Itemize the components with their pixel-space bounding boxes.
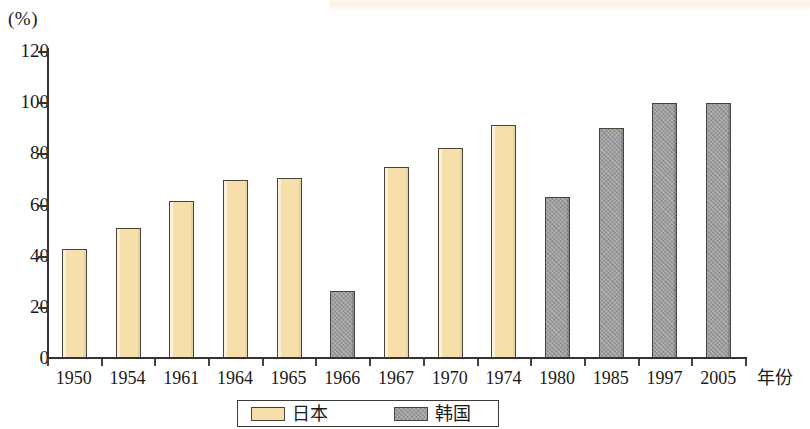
x-axis-tick-mark xyxy=(530,359,532,366)
bar-1985-korea xyxy=(599,128,624,358)
bar-1970-japan xyxy=(438,148,463,358)
legend-swatch-korea xyxy=(394,407,428,421)
bar-2005-korea xyxy=(706,103,731,358)
x-axis-tick-label: 1967 xyxy=(366,368,426,388)
x-axis-tick-mark xyxy=(262,359,264,366)
x-axis-tick-label: 1985 xyxy=(581,368,641,388)
x-axis-tick-mark xyxy=(101,359,103,366)
y-axis-unit-label: (%) xyxy=(8,8,38,30)
y-axis-line xyxy=(47,48,49,360)
scan-artifact-band xyxy=(330,0,810,11)
x-axis-tick-label: 1964 xyxy=(205,368,265,388)
bar-1964-japan xyxy=(223,180,248,358)
x-axis-title: 年份 xyxy=(757,368,793,388)
x-axis-tick-label: 1974 xyxy=(473,368,533,388)
x-axis-tick-label: 1980 xyxy=(527,368,587,388)
x-axis-tick-mark xyxy=(477,359,479,366)
bar-1974-japan xyxy=(491,125,516,358)
x-axis-tick-label: 1954 xyxy=(98,368,158,388)
x-axis-tick-mark xyxy=(745,359,747,366)
x-axis-tick-label: 1965 xyxy=(259,368,319,388)
bar-1967-japan xyxy=(384,167,409,358)
x-axis-tick-label: 1966 xyxy=(312,368,372,388)
bar-chart: (%) 020406080100120 19501954196119641965… xyxy=(0,0,810,429)
x-axis-tick-label: 1997 xyxy=(634,368,694,388)
chart-legend: 日本 韩国 xyxy=(237,400,499,427)
legend-label-japan: 日本 xyxy=(292,405,328,423)
legend-label-korea: 韩国 xyxy=(435,405,471,423)
x-axis-tick-mark xyxy=(208,359,210,366)
x-axis-tick-mark xyxy=(423,359,425,366)
legend-item-japan: 日本 xyxy=(251,405,328,423)
x-axis-tick-mark xyxy=(47,359,49,366)
x-axis-tick-label: 1950 xyxy=(44,368,104,388)
bar-1980-korea xyxy=(545,197,570,358)
x-axis-line xyxy=(47,357,747,359)
bar-1961-japan xyxy=(169,201,194,358)
bar-1997-korea xyxy=(652,103,677,358)
x-axis-tick-label: 2005 xyxy=(688,368,748,388)
bar-1954-japan xyxy=(116,228,141,358)
x-axis-tick-mark xyxy=(638,359,640,366)
legend-swatch-japan xyxy=(251,407,285,421)
x-axis-tick-mark xyxy=(369,359,371,366)
bar-1950-japan xyxy=(62,249,87,358)
x-axis-tick-label: 1961 xyxy=(151,368,211,388)
x-axis-tick-mark xyxy=(315,359,317,366)
x-axis-tick-mark xyxy=(691,359,693,366)
bar-1965-japan xyxy=(277,178,302,358)
legend-item-korea: 韩国 xyxy=(394,405,471,423)
x-axis-tick-mark xyxy=(154,359,156,366)
bar-1966-korea xyxy=(330,291,355,358)
x-axis-tick-label: 1970 xyxy=(420,368,480,388)
y-axis-tick-label: 0 xyxy=(15,348,49,367)
x-axis-tick-mark xyxy=(584,359,586,366)
